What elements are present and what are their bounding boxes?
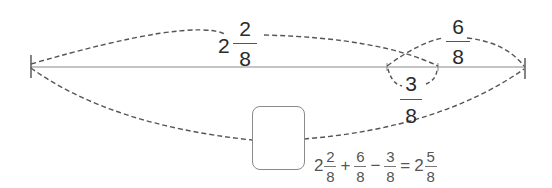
arc-top-whole <box>31 30 225 64</box>
arc-add-right <box>467 38 524 66</box>
arc-bottom-total <box>31 68 252 140</box>
eq-term3-numerator: 3 <box>386 149 394 164</box>
eq-term2-fraction: 6 8 <box>354 149 366 184</box>
eq-term2-numerator: 6 <box>356 149 364 164</box>
fraction-bar <box>446 41 470 42</box>
eq-minus-sign: − <box>370 156 380 176</box>
label-top-whole: 2 <box>218 34 230 58</box>
fraction-bar <box>400 99 422 100</box>
eq-plus-sign: + <box>340 156 350 176</box>
label-top-fraction: 2 8 <box>233 18 257 69</box>
label-subtract-denominator: 8 <box>405 105 417 126</box>
label-subtract-fraction: 3 8 <box>400 73 422 126</box>
fraction-bar <box>425 166 437 167</box>
eq-equals-sign: = <box>400 156 410 176</box>
equation: 2 2 8 + 6 8 − 3 8 = 2 5 8 <box>314 146 437 186</box>
eq-result-numerator: 5 <box>427 149 435 164</box>
eq-result-whole: 2 <box>414 156 423 176</box>
label-add-numerator: 6 <box>452 16 464 37</box>
eq-term3-fraction: 3 8 <box>384 149 396 184</box>
label-subtract-numerator: 3 <box>405 73 417 94</box>
fraction-bar <box>384 166 396 167</box>
fraction-bar <box>354 166 366 167</box>
fraction-bar <box>233 43 257 44</box>
eq-result-denominator: 8 <box>427 169 435 184</box>
answer-box[interactable] <box>252 106 305 170</box>
label-top-numerator: 2 <box>239 18 251 39</box>
eq-result-fraction: 5 8 <box>425 149 437 184</box>
label-add-fraction: 6 8 <box>446 16 470 67</box>
eq-term1-whole: 2 <box>314 156 323 176</box>
eq-term3-denominator: 8 <box>386 169 394 184</box>
arc-top-whole-right <box>264 35 438 66</box>
eq-term1-denominator: 8 <box>326 169 334 184</box>
label-top-denominator: 8 <box>239 48 251 69</box>
eq-term1-numerator: 2 <box>326 149 334 164</box>
arc-subtract-right <box>426 70 437 84</box>
eq-term2-denominator: 8 <box>356 169 364 184</box>
arc-add <box>387 38 443 66</box>
label-add-denominator: 8 <box>452 46 464 67</box>
fraction-bar <box>324 166 336 167</box>
eq-term1-fraction: 2 8 <box>324 149 336 184</box>
